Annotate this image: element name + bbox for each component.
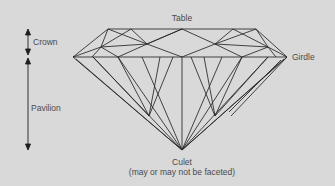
crown-arrow: [26, 29, 31, 55]
girdle-label: Girdle: [292, 53, 315, 62]
crown-label: Crown: [33, 38, 58, 47]
diamond-outline: [73, 29, 287, 150]
table-label: Table: [172, 14, 192, 23]
culet-label: Culet: [172, 158, 192, 167]
diamond-diagram: [0, 0, 335, 186]
culet-note-label: (may or may not be faceted): [129, 168, 235, 177]
pavilion-label: Pavilion: [31, 104, 61, 113]
pavilion-arrow: [26, 58, 31, 150]
